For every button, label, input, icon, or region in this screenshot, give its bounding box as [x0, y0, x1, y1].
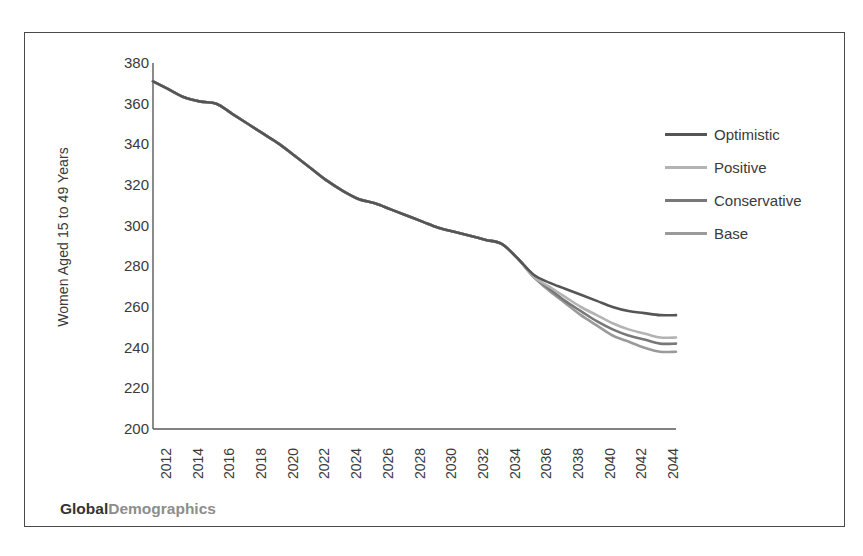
series-line-conservative	[153, 81, 676, 344]
series-line-base	[153, 81, 676, 352]
legend-item-label: Base	[714, 225, 748, 242]
legend-line-swatch	[665, 232, 707, 235]
x-axis-tick-label: 2044	[666, 448, 680, 479]
x-axis-tick-label: 2030	[444, 448, 458, 479]
legend-item[interactable]: Conservative	[665, 184, 845, 217]
chart-legend: OptimisticPositiveConservativeBase	[665, 118, 845, 250]
legend-item-label: Conservative	[714, 192, 802, 209]
x-axis-tick-label: 2040	[603, 448, 617, 479]
chart-plot-container: Women Aged 15 to 49 Years 20022024026028…	[25, 33, 846, 528]
legend-line-swatch	[665, 166, 707, 169]
x-axis-tick-label: 2020	[286, 448, 300, 479]
brand-watermark: GlobalDemographics	[60, 500, 216, 518]
series-line-optimistic	[153, 81, 676, 315]
legend-item[interactable]: Positive	[665, 151, 845, 184]
x-axis-tick-label: 2022	[317, 448, 331, 479]
x-axis-tick-label: 2024	[349, 448, 363, 479]
x-axis-tick-label: 2034	[508, 448, 522, 479]
axis-lines	[153, 63, 676, 429]
legend-item[interactable]: Base	[665, 217, 845, 250]
x-axis-tick-label: 2032	[476, 448, 490, 479]
legend-item-label: Optimistic	[714, 126, 780, 143]
brand-primary-text: Global	[60, 500, 108, 517]
x-axis-tick-label: 2026	[381, 448, 395, 479]
brand-secondary-text: Demographics	[108, 500, 216, 517]
x-axis-tick-label: 2042	[634, 448, 648, 479]
x-axis-tick-label: 2036	[539, 448, 553, 479]
legend-line-swatch	[665, 199, 707, 202]
series-line-positive	[153, 81, 676, 338]
x-axis-tick-label: 2016	[222, 448, 236, 479]
x-axis-tick-labels: 2012201420162018202020222024202620282030…	[153, 433, 813, 523]
legend-item[interactable]: Optimistic	[665, 118, 845, 151]
legend-item-label: Positive	[714, 159, 767, 176]
x-axis-tick-label: 2038	[571, 448, 585, 479]
x-axis-tick-label: 2018	[254, 448, 268, 479]
x-axis-tick-label: 2014	[191, 448, 205, 479]
legend-line-swatch	[665, 133, 707, 136]
series-lines	[153, 81, 676, 352]
chart-figure-frame: Women Aged 15 to 49 Years 20022024026028…	[24, 32, 845, 527]
x-axis-tick-label: 2028	[413, 448, 427, 479]
x-axis-tick-label: 2012	[159, 448, 173, 479]
